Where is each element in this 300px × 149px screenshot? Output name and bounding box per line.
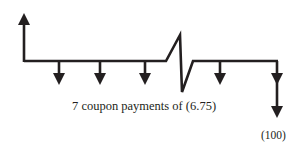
coupon-arrow-down-icon (139, 73, 151, 85)
coupon-payments-label: 7 coupon payments of (6.75) (72, 99, 216, 114)
principal-repayment-label: (100) (261, 129, 286, 141)
principal-arrow-down-icon (271, 106, 283, 118)
coupon-arrow-down-icon (214, 73, 226, 85)
coupon-arrow-down-icon (53, 73, 65, 85)
timeline-graphic (0, 0, 300, 149)
timeline-baseline (24, 35, 278, 92)
coupon-arrow-down-icon (94, 73, 106, 85)
cash-flow-diagram: 7 coupon payments of (6.75) (100) (0, 0, 300, 149)
coupon-arrow-down-icon (271, 73, 283, 85)
inflow-arrow-up-icon (18, 13, 30, 25)
